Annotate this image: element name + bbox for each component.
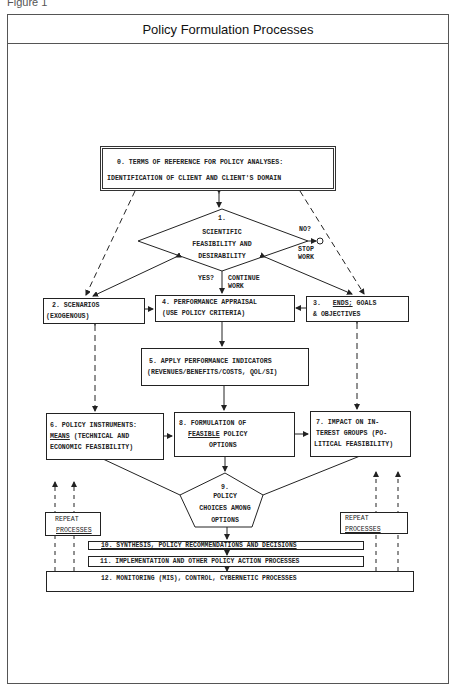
node-5-performance-indicators: 5. APPLY PERFORMANCE INDICATORS (REVENUE… <box>141 348 309 386</box>
node-4-line2: (USE POLICY CRITERIA) <box>162 308 294 319</box>
edge-label-no: NO? <box>293 226 317 234</box>
node-0-terms-of-reference: 0. TERMS OF REFERENCE FOR POLICY ANALYSE… <box>100 146 336 191</box>
repeat-processes-right: REPEAT PROCESSES <box>340 512 408 534</box>
node-3-line1: 3. ENDS; GOALS <box>313 298 408 309</box>
node-3-number: 3. <box>313 300 333 307</box>
node-0-line1: 0. TERMS OF REFERENCE FOR POLICY ANALYSE… <box>117 155 329 171</box>
node-8-formulation: 8. FORMULATION OF FEASIBLE POLICY OPTION… <box>174 412 295 457</box>
node-5-line2: (REVENUES/BENEFITS/COSTS, QOL/SI) <box>147 367 308 378</box>
node-8-feasible: FEASIBLE <box>188 431 220 438</box>
node-1-line2: FEASIBILITY AND <box>170 241 274 249</box>
continue-line1: CONTINUE <box>228 275 272 283</box>
node-6-line1: 6. POLICY INSTRUMENTS: <box>50 420 163 431</box>
edge-label-yes: YES? <box>194 275 218 283</box>
node-2-scenarios: 2. SCENARIOS (EXOGENOUS) <box>43 298 145 324</box>
edge-label-stop: STOP WORK <box>294 246 318 262</box>
node-10-synthesis: 10. SYNTHESIS, POLICY RECOMMENDATIONS AN… <box>88 541 364 550</box>
node-5-line1: 5. APPLY PERFORMANCE INDICATORS <box>149 356 308 367</box>
node-1-line3: DESIRABILITY <box>170 253 274 261</box>
node-7-line3: LITICAL FEASIBILITY) <box>314 439 410 450</box>
node-6-policy-instruments: 6. POLICY INSTRUMENTS: MEANS (TECHNICAL … <box>46 413 164 460</box>
node-3-ends-goals: 3. ENDS; GOALS & OBJECTIVES <box>306 296 409 322</box>
node-4-performance-appraisal: 4. PERFORMANCE APPRAISAL (USE POLICY CRI… <box>155 295 295 322</box>
node-1-line1: SCIENTIFIC <box>170 229 274 237</box>
node-8-line2: FEASIBLE POLICY <box>179 429 294 440</box>
node-7-line1: 7. IMPACT ON IN- <box>316 417 410 428</box>
node-9-number: 9. <box>205 484 245 492</box>
node-6-line2-rest: (TECHNICAL AND <box>70 433 129 440</box>
node-1-number: 1. <box>200 215 244 223</box>
stop-line1: STOP <box>294 246 318 254</box>
node-0-line2: IDENTIFICATION OF CLIENT AND CLIENT'S DO… <box>107 171 329 187</box>
node-7-impact-interest-groups: 7. IMPACT ON IN- TEREST GROUPS (PO- LITI… <box>310 411 411 457</box>
node-6-line3: ECONOMIC FEASIBILITY) <box>50 442 163 453</box>
node-2-line2: (EXOGENOUS) <box>46 311 144 322</box>
node-2-line1: 2. SCENARIOS <box>52 300 144 311</box>
node-6-line2: MEANS (TECHNICAL AND <box>50 431 163 442</box>
repeat-processes-left: REPEAT PROCESSES <box>45 512 101 536</box>
continue-line2: WORK <box>228 283 272 291</box>
node-11-implementation: 11. IMPLEMENTATION AND OTHER POLICY ACTI… <box>88 556 364 567</box>
stop-line2: WORK <box>294 254 318 262</box>
repeat-left-line1: REPEAT <box>55 514 100 525</box>
node-4-line1: 4. PERFORMANCE APPRAISAL <box>162 297 294 308</box>
node-3-ends: ENDS; <box>333 300 353 307</box>
repeat-right-line2: PROCESSES <box>345 524 407 535</box>
node-3-goals: GOALS <box>353 300 377 307</box>
node-9-line3: OPTIONS <box>185 517 265 525</box>
node-6-means: MEANS <box>50 433 70 440</box>
node-8-line3: OPTIONS <box>179 440 294 451</box>
node-3-line2: & OBJECTIVES <box>313 309 408 320</box>
node-7-line2: TEREST GROUPS (PO- <box>316 428 410 439</box>
node-8-line1: 8. FORMULATION OF <box>179 418 294 429</box>
node-12-monitoring: 12. MONITORING (MIS), CONTROL, CYBERNETI… <box>46 571 414 592</box>
repeat-right-line1: REPEAT <box>345 513 407 524</box>
node-8-line2-rest: POLICY <box>220 431 248 438</box>
node-9-line2: CHOICES AMONG <box>180 505 270 513</box>
edge-label-continue: CONTINUE WORK <box>228 275 272 291</box>
node-9-line1: POLICY <box>185 493 265 501</box>
repeat-left-line2: PROCESSES <box>56 525 100 536</box>
